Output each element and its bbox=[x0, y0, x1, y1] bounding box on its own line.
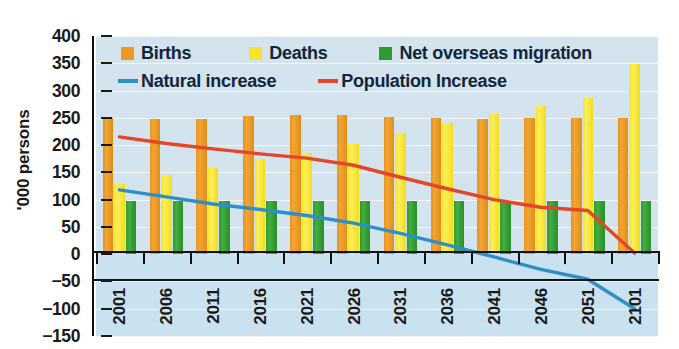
gridline bbox=[96, 336, 658, 337]
y-tick-mark bbox=[101, 199, 112, 201]
x-tick-label-2051: 2051 bbox=[579, 288, 599, 325]
x-tick-label-2031: 2031 bbox=[391, 288, 411, 325]
y-tick-mark bbox=[101, 280, 112, 282]
y-axis-spine bbox=[92, 36, 94, 336]
x-tick-label-2011: 2011 bbox=[204, 288, 224, 324]
y-tick-mark bbox=[101, 335, 112, 337]
x-tick-label-2046: 2046 bbox=[532, 288, 552, 325]
x-tick-label-2001: 2001 bbox=[110, 288, 130, 325]
x-tick-label-2036: 2036 bbox=[438, 288, 458, 325]
y-tick-label: −150 bbox=[24, 326, 80, 347]
x-axis-ticks: 2001200620112016202120262031203620412046… bbox=[96, 36, 658, 336]
x-tick-label-2026: 2026 bbox=[345, 288, 365, 325]
y-tick-mark bbox=[101, 62, 112, 64]
x-tick-label-2041: 2041 bbox=[485, 288, 505, 325]
y-tick-mark bbox=[101, 117, 112, 119]
y-tick-mark bbox=[101, 253, 112, 255]
y-tick-mark bbox=[101, 35, 112, 37]
y-tick-label: −100 bbox=[24, 298, 80, 319]
y-tick-mark bbox=[101, 144, 112, 146]
population-projection-chart: 2001200620112016202120262031203620412046… bbox=[0, 0, 679, 349]
x-tick-label-2101: 2101 bbox=[626, 288, 646, 325]
y-tick-mark bbox=[101, 171, 112, 173]
zero-baseline bbox=[92, 251, 659, 253]
y-axis-title: '000 persons bbox=[14, 60, 34, 260]
x-tick-label-2016: 2016 bbox=[251, 288, 271, 325]
y-tick-mark bbox=[101, 308, 112, 310]
x-tick-label-2021: 2021 bbox=[298, 288, 318, 325]
y-tick-mark bbox=[101, 226, 112, 228]
x-axis-spine bbox=[92, 279, 659, 281]
y-tick-label: −50 bbox=[24, 271, 80, 292]
x-tick-label-2006: 2006 bbox=[157, 288, 177, 325]
y-tick-mark bbox=[101, 90, 112, 92]
y-tick-label: 400 bbox=[24, 26, 80, 47]
